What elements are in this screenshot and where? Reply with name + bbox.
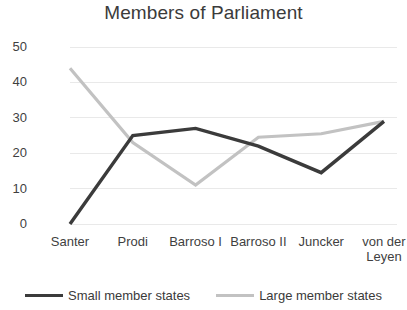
line-small-member-states [70, 121, 384, 224]
x-axis: SanterProdiBarroso IBarroso IIJunckervon… [33, 234, 397, 280]
series-layer [33, 40, 397, 232]
x-axis-tick-label: Santer [36, 234, 105, 249]
y-axis-tick-label: 20 [0, 147, 27, 159]
legend-swatch [216, 294, 254, 297]
y-axis-tick-label: 30 [0, 112, 27, 124]
legend-label: Large member states [259, 288, 382, 303]
chart-legend: Small member statesLarge member states [0, 288, 407, 303]
chart-container: Members of Parliament 01020304050 Santer… [0, 0, 407, 310]
legend-item[interactable]: Small member states [25, 288, 190, 303]
x-axis-tick-label: Juncker [287, 234, 356, 249]
legend-swatch [25, 294, 63, 297]
x-axis-tick-label: von der Leyen [350, 234, 407, 264]
chart-title: Members of Parliament [0, 2, 407, 24]
line-large-member-states [70, 68, 384, 185]
x-axis-tick-label: Prodi [98, 234, 167, 249]
y-axis-tick-label: 10 [0, 183, 27, 195]
x-axis-tick-label: Barroso I [161, 234, 230, 249]
legend-item[interactable]: Large member states [216, 288, 382, 303]
y-axis-tick-label: 0 [0, 218, 27, 230]
y-axis-tick-label: 50 [0, 41, 27, 53]
y-axis-tick-label: 40 [0, 76, 27, 88]
x-axis-tick-label: Barroso II [224, 234, 293, 249]
legend-label: Small member states [68, 288, 190, 303]
